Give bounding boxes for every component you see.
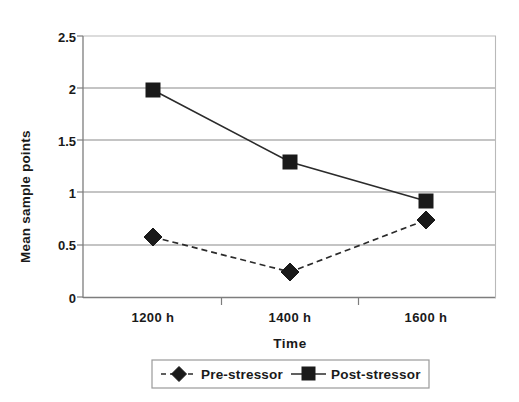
x-tick-label-1400h: 1400 h <box>269 310 312 325</box>
legend-item-post-stressor[interactable]: Post-stressor <box>291 367 421 382</box>
legend-label-pre-stressor: Pre-stressor <box>201 367 283 382</box>
square-icon <box>283 155 297 169</box>
y-tick-label-2-5: 2.5 <box>58 30 76 45</box>
square-icon <box>302 367 315 380</box>
y-tick-label-0: 0 <box>69 291 76 306</box>
x-tick-label-1200h: 1200 h <box>132 310 175 325</box>
y-axis-title: Mean sample points <box>18 130 33 263</box>
y-tick-label-0-5: 0.5 <box>58 238 76 253</box>
legend-item-pre-stressor[interactable]: Pre-stressor <box>161 367 283 383</box>
x-axis-title: Time <box>273 336 307 351</box>
square-icon <box>419 194 433 208</box>
legend-label-post-stressor: Post-stressor <box>331 367 421 382</box>
square-icon <box>146 83 160 97</box>
chart-figure: Mean sample points 2.5 2 1.5 1 0.5 0 <box>0 0 519 402</box>
y-tick-label-2: 2 <box>69 82 76 97</box>
chart-canvas: Mean sample points 2.5 2 1.5 1 0.5 0 <box>0 0 519 402</box>
x-tick-label-1600h: 1600 h <box>405 310 448 325</box>
y-tick-label-1: 1 <box>69 186 76 201</box>
y-tick-label-1-5: 1.5 <box>58 134 76 149</box>
figure-background <box>0 0 519 402</box>
